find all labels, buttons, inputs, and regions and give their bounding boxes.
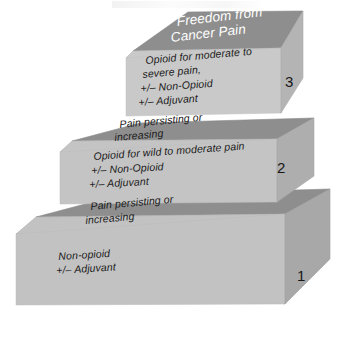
step-2-number: 2 (277, 160, 285, 175)
step-3-number: 3 (285, 74, 293, 89)
analgesic-ladder-figure: Freedom from Cancer Pain Opioid for mode… (0, 0, 353, 349)
step-1-number: 1 (297, 268, 305, 283)
